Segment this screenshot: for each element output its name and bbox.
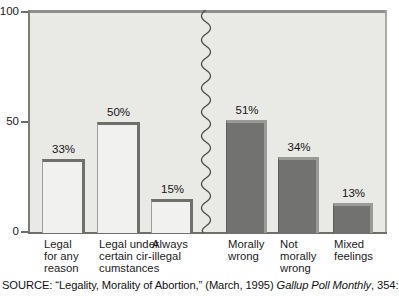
y-axis-line <box>28 10 30 233</box>
bar-legal-for-any-reason <box>42 159 85 233</box>
bar-value-legal-under-certain-circumstances: 50% <box>97 106 140 118</box>
y-tick-mark-50 <box>21 121 28 123</box>
bar-legal-under-certain-circumstances <box>97 122 140 233</box>
category-label-always-illegal: Always illegal <box>152 238 200 262</box>
category-label-not-morally-wrong: Not morally wrong <box>280 238 330 275</box>
bar-value-always-illegal: 15% <box>151 183 194 195</box>
y-tick-label-100: 100 <box>0 6 19 17</box>
bar-not-morally-wrong <box>278 157 319 233</box>
y-tick-mark-0 <box>21 231 28 233</box>
bar-value-mixed-feelings: 13% <box>333 187 374 199</box>
y-tick-mark-100 <box>21 11 28 13</box>
bar-value-legal-for-any-reason: 33% <box>42 143 85 155</box>
y-tick-label-0: 0 <box>13 226 19 237</box>
source-note: SOURCE: “Legality, Morality of Abortion,… <box>2 279 390 292</box>
bar-always-illegal <box>151 199 193 233</box>
y-axis-labels: 100 50 0 <box>0 0 19 296</box>
category-label-mixed-feelings: Mixed feelings <box>334 238 386 262</box>
bar-mixed-feelings <box>333 203 373 233</box>
y-tick-label-50: 50 <box>6 116 19 127</box>
source-journal-title: Gallup Poll Monthly <box>277 279 371 291</box>
category-label-morally-wrong: Morally wrong <box>228 238 280 262</box>
source-suffix: , 354: <box>371 279 398 291</box>
wavy-divider-icon <box>196 10 216 233</box>
plot-right-border <box>385 10 387 233</box>
source-prefix: SOURCE: “Legality, Morality of Abortion,… <box>2 279 277 291</box>
bar-value-morally-wrong: 51% <box>226 104 268 116</box>
bar-morally-wrong <box>226 120 267 233</box>
bar-value-not-morally-wrong: 34% <box>278 141 320 153</box>
category-label-legal-for-any-reason: Legal for any reason <box>44 238 94 275</box>
